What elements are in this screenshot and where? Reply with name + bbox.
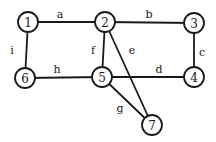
node-label: 6 (21, 72, 29, 86)
edge-b (105, 22, 194, 23)
edge-label-h: h (53, 63, 60, 76)
node-1: 1 (18, 12, 38, 32)
edge-label-d: d (155, 63, 162, 76)
node-4: 4 (184, 67, 204, 87)
node-7: 7 (142, 115, 162, 135)
node-5: 5 (92, 67, 112, 87)
node-6: 6 (15, 68, 35, 88)
edge-h (25, 77, 102, 78)
node-label: 1 (24, 16, 32, 30)
graph-diagram: abcdefghi 1234567 (0, 0, 216, 142)
edge-label-g: g (116, 102, 123, 115)
edge-label-e: e (129, 44, 136, 57)
edge-label-a: a (57, 8, 64, 21)
node-3: 3 (184, 13, 204, 33)
node-label: 7 (148, 119, 156, 133)
edge-label-c: c (199, 46, 205, 59)
node-label: 5 (98, 71, 106, 85)
edge-label-b: b (145, 8, 152, 21)
node-2: 2 (95, 12, 115, 32)
node-label: 2 (101, 16, 109, 30)
node-label: 4 (190, 71, 198, 85)
node-label: 3 (190, 17, 198, 31)
edge-label-i: i (10, 44, 14, 57)
nodes-layer: 1234567 (15, 12, 204, 135)
edge-label-f: f (91, 44, 96, 57)
